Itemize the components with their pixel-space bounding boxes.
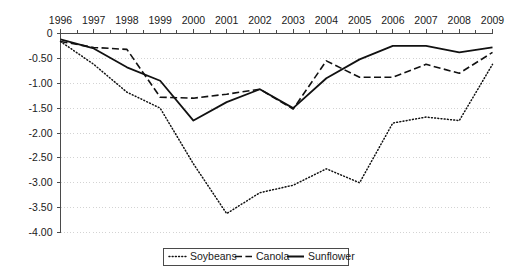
y-tick-label: -4.00 (29, 226, 53, 238)
x-tick-label: 1999 (149, 14, 173, 26)
x-axis: 1996199719981999200020012002200320042005… (49, 14, 505, 34)
legend-label-sunflower: Sunflower (308, 250, 355, 262)
gridlines (61, 58, 493, 232)
y-tick-label: -3.00 (29, 176, 53, 188)
chart-canvas: 0-0.50-1.00-1.50-2.00-2.50-3.00-3.50-4.0… (0, 0, 510, 275)
y-tick-label: -3.50 (29, 201, 53, 213)
line-chart: 0-0.50-1.00-1.50-2.00-2.50-3.00-3.50-4.0… (0, 0, 510, 275)
x-tick-label: 2001 (215, 14, 239, 26)
x-tick-label: 2002 (248, 14, 272, 26)
x-tick-label: 2009 (481, 14, 505, 26)
chart-legend: SoybeansCanolaSunflower (163, 248, 355, 265)
x-tick-label: 1997 (82, 14, 106, 26)
x-tick-label: 1998 (115, 14, 139, 26)
x-tick-label: 2003 (281, 14, 305, 26)
y-tick-label: -1.00 (29, 77, 53, 89)
legend-label-canola: Canola (256, 250, 289, 262)
data-series (61, 39, 493, 213)
x-tick-label: 2000 (182, 14, 206, 26)
x-tick-label: 2008 (448, 14, 472, 26)
y-tick-label: 0 (47, 27, 53, 39)
x-tick-label: 2005 (348, 14, 372, 26)
x-tick-label: 2004 (315, 14, 339, 26)
y-tick-label: -0.50 (29, 52, 53, 64)
y-tick-label: -1.50 (29, 102, 53, 114)
legend-label-soybeans: Soybeans (190, 250, 237, 262)
y-axis: 0-0.50-1.00-1.50-2.00-2.50-3.00-3.50-4.0… (29, 27, 61, 238)
x-tick-label: 2006 (381, 14, 405, 26)
y-tick-label: -2.50 (29, 151, 53, 163)
x-tick-label: 2007 (414, 14, 438, 26)
x-tick-label: 1996 (49, 14, 73, 26)
y-tick-label: -2.00 (29, 127, 53, 139)
